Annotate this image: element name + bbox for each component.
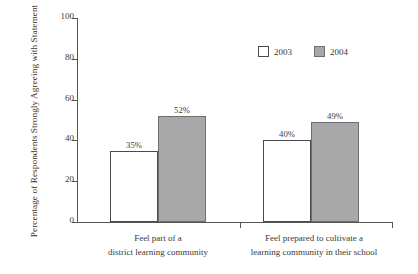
y-tick-label-100: 100 (61, 11, 75, 21)
y-tick-label-60: 60 (65, 93, 74, 103)
bar-value-label: 49% (327, 111, 343, 121)
y-tick-label-0: 0 (70, 215, 75, 225)
x-tick-end (392, 222, 393, 228)
bar-value-label: 35% (126, 140, 142, 150)
y-axis-title-line-1: Percentage of Respondents (28, 135, 40, 237)
bar-chart: Percentage of Respondents Strongly Agree… (0, 0, 418, 274)
x-category-label-1-line-1: Feel part of a (71, 232, 245, 246)
legend-swatch-icon-2003 (258, 46, 269, 57)
legend-label-2003: 2003 (274, 47, 292, 57)
x-axis-line (77, 222, 393, 223)
bar-2003-district-learning-community: 35% (110, 151, 158, 222)
y-axis-title: Percentage of Respondents Strongly Agree… (17, 11, 51, 231)
legend-item-2003: 2003 (258, 46, 292, 57)
bar-2004-learning-community-in-their-school: 49% (311, 122, 359, 222)
x-axis-category-labels: Feel part of a district learning communi… (77, 232, 393, 272)
bar-2003-learning-community-in-their-school: 40% (263, 140, 311, 222)
y-axis-title-line-2: Strongly Agreeing with Statement (28, 5, 40, 134)
x-category-label-1-line-2: district learning community (71, 246, 245, 260)
y-tick-label-40: 40 (65, 133, 74, 143)
x-tick-mid (240, 222, 241, 228)
legend-swatch-icon-2004 (314, 46, 325, 57)
legend-item-2004: 2004 (314, 46, 348, 57)
bar-value-label: 40% (279, 129, 295, 139)
y-tick-label-80: 80 (65, 52, 74, 62)
bar-2004-district-learning-community: 52% (158, 116, 206, 222)
legend-label-2004: 2004 (330, 47, 348, 57)
x-category-label-2-line-1: Feel prepared to cultivate a (225, 232, 403, 246)
legend: 2003 2004 (258, 46, 348, 57)
x-category-label-1: Feel part of a district learning communi… (71, 232, 245, 259)
y-axis-line (77, 18, 78, 222)
x-category-label-2-line-2: learning community in their school (225, 246, 403, 260)
y-tick-label-20: 20 (65, 174, 74, 184)
x-category-label-2: Feel prepared to cultivate a learning co… (225, 232, 403, 259)
bar-value-label: 52% (174, 105, 190, 115)
